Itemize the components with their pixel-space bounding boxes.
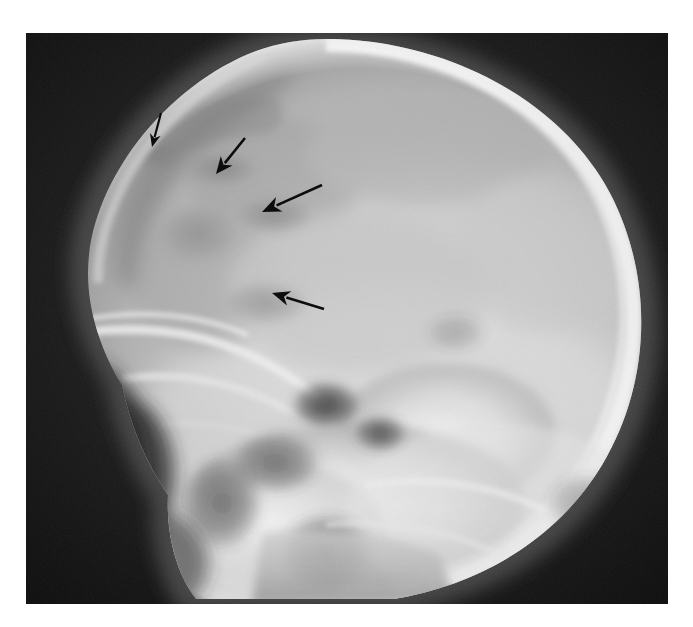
radiograph-film-frame [26,33,668,604]
lateral-skull-xray-image [26,33,668,604]
figure-root [0,0,693,627]
film-grain-overlay [26,33,668,604]
